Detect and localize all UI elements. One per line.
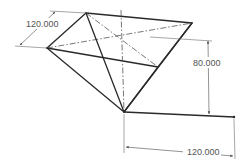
pyramid-sketch: 120.000 80.000 120.000 [0,0,246,168]
dimension-text-height[interactable]: 80.000 [193,58,221,68]
extension-line [15,46,47,48]
edge-slant-front[interactable] [124,67,158,112]
dimension-bottom-length[interactable]: 120.000 [124,114,235,159]
dimension-text-top-width[interactable]: 120.000 [26,19,59,29]
edge-slant-left[interactable] [47,48,124,112]
dimension-height[interactable]: 80.000 [150,37,226,114]
cad-drawing-canvas: 120.000 80.000 120.000 [0,0,246,168]
edge-top-back[interactable] [86,13,192,23]
extension-line [50,11,86,13]
centerline-diagonal-1 [47,23,192,48]
edge-slant-back[interactable] [86,13,124,112]
dimension-text-bottom-length[interactable]: 120.000 [187,147,220,157]
endpoint-marker [233,116,235,118]
dimension-top-width[interactable]: 120.000 [15,11,86,48]
bottom-reference-line[interactable] [124,112,234,117]
dimension-line [208,41,209,114]
extension-line [234,119,235,159]
pyramid-top-face[interactable] [47,13,192,67]
